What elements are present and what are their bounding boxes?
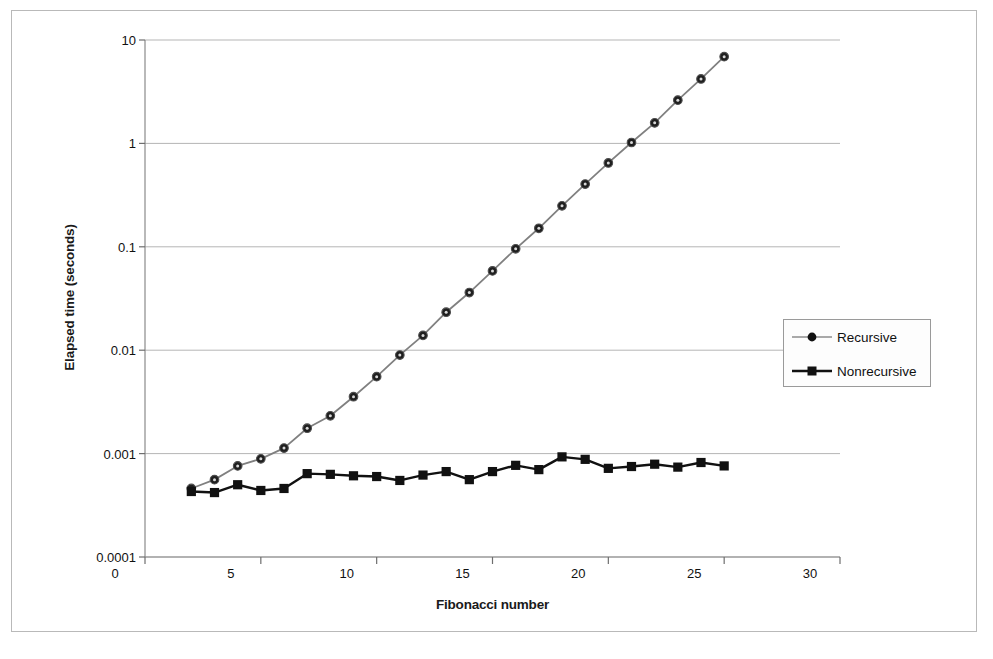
data-point-center bbox=[283, 447, 286, 450]
series-line bbox=[191, 457, 724, 493]
data-point bbox=[511, 461, 520, 470]
y-tick-label: 0.0001 bbox=[56, 550, 136, 565]
series-line bbox=[191, 57, 724, 489]
x-tick-label: 20 bbox=[548, 566, 608, 581]
data-point-center bbox=[352, 395, 355, 398]
data-series-layer bbox=[187, 52, 729, 497]
data-point-center bbox=[514, 247, 517, 250]
data-point-center bbox=[584, 183, 587, 186]
legend-item-recursive: Recursive bbox=[784, 320, 930, 354]
data-point bbox=[372, 472, 381, 481]
data-point bbox=[465, 475, 474, 484]
x-tick-label: 25 bbox=[664, 566, 724, 581]
x-tick-label: 30 bbox=[780, 566, 840, 581]
data-point bbox=[210, 488, 219, 497]
y-tick-label: 1 bbox=[56, 136, 136, 151]
legend-label-nonrecursive: Nonrecursive bbox=[837, 364, 917, 379]
data-point bbox=[581, 455, 590, 464]
data-point bbox=[395, 476, 404, 485]
x-tick-label: 10 bbox=[317, 566, 377, 581]
data-point-center bbox=[422, 334, 425, 337]
y-tick-label: 10 bbox=[56, 33, 136, 48]
data-point-center bbox=[329, 414, 332, 417]
x-axis-tick-labels: 051015202530 bbox=[0, 566, 993, 596]
data-point-center bbox=[213, 478, 216, 481]
series-recursive bbox=[187, 52, 728, 492]
data-point bbox=[488, 467, 497, 476]
data-point bbox=[349, 471, 358, 480]
data-point-center bbox=[561, 204, 564, 207]
data-point-center bbox=[236, 464, 239, 467]
data-point bbox=[326, 470, 335, 479]
data-point bbox=[256, 486, 265, 495]
gridlines bbox=[145, 40, 840, 557]
data-point-center bbox=[537, 227, 540, 230]
data-point-center bbox=[653, 121, 656, 124]
x-tick-label: 15 bbox=[433, 566, 493, 581]
data-point bbox=[442, 467, 451, 476]
data-point-center bbox=[491, 269, 494, 272]
y-tick-label: 0.001 bbox=[56, 446, 136, 461]
axis-lines bbox=[145, 40, 840, 557]
chart-figure: 1010.10.010.0010.0001 051015202530 Elaps… bbox=[0, 0, 993, 659]
legend-item-nonrecursive: Nonrecursive bbox=[784, 354, 930, 388]
data-point-center bbox=[630, 141, 633, 144]
data-point-center bbox=[445, 311, 448, 314]
x-tick-label: 5 bbox=[201, 566, 261, 581]
data-point-center bbox=[468, 291, 471, 294]
data-point bbox=[650, 460, 659, 469]
data-point bbox=[418, 470, 427, 479]
data-point bbox=[673, 463, 682, 472]
data-point-center bbox=[700, 77, 703, 80]
data-point bbox=[557, 452, 566, 461]
data-point bbox=[187, 487, 196, 496]
data-point-center bbox=[607, 161, 610, 164]
x-axis-title: Fibonacci number bbox=[145, 597, 840, 612]
data-point bbox=[534, 465, 543, 474]
legend: Recursive Nonrecursive bbox=[783, 319, 931, 387]
y-axis-title: Elapsed time (seconds) bbox=[62, 183, 77, 413]
data-point-center bbox=[676, 99, 679, 102]
series-nonrecursive bbox=[187, 452, 729, 497]
legend-swatch-nonrecursive bbox=[791, 362, 833, 380]
data-point-center bbox=[723, 55, 726, 58]
data-point-center bbox=[306, 427, 309, 430]
data-point bbox=[303, 469, 312, 478]
data-point bbox=[696, 458, 705, 467]
data-point-center bbox=[398, 354, 401, 357]
data-point bbox=[720, 461, 729, 470]
x-tick-label: 0 bbox=[85, 566, 145, 581]
data-point-center bbox=[259, 457, 262, 460]
data-point bbox=[604, 464, 613, 473]
legend-swatch-recursive bbox=[791, 328, 833, 346]
legend-label-recursive: Recursive bbox=[837, 330, 897, 345]
data-point bbox=[627, 462, 636, 471]
data-point-center bbox=[375, 375, 378, 378]
data-point bbox=[279, 484, 288, 493]
data-point bbox=[233, 480, 242, 489]
